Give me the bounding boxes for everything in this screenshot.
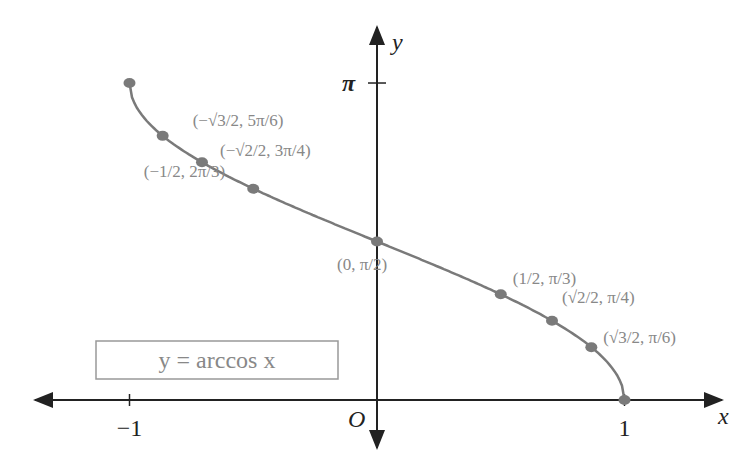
point-label: (−1/2, 2π/3) <box>144 162 225 181</box>
point-label: (−√2/2, 3π/4) <box>220 141 311 160</box>
point-label: (√3/2, π/6) <box>603 328 676 347</box>
origin-label: O <box>348 406 365 432</box>
y-tick-label: π <box>342 70 356 96</box>
legend-label: y = arccos x <box>159 347 276 373</box>
point-label: (√2/2, π/4) <box>562 288 635 307</box>
arccos-chart: −11πxyO (−√3/2, 5π/6)(−√2/2, 3π/4)(−1/2,… <box>0 0 744 473</box>
data-point <box>495 289 507 299</box>
x-tick-label: 1 <box>619 415 631 441</box>
point-label: (1/2, π/3) <box>513 269 576 288</box>
data-point <box>124 78 136 88</box>
y-axis-label: y <box>390 29 403 55</box>
x-axis-label: x <box>717 403 729 429</box>
data-point <box>247 184 259 194</box>
point-label: (0, π/2) <box>337 255 387 274</box>
point-label: (−√3/2, 5π/6) <box>193 111 284 130</box>
data-point <box>157 131 169 141</box>
data-point <box>371 237 383 247</box>
data-point <box>585 342 597 352</box>
data-point <box>546 316 558 326</box>
legend: y = arccos x <box>96 341 338 379</box>
x-tick-label: −1 <box>117 415 143 441</box>
data-point <box>619 395 631 405</box>
